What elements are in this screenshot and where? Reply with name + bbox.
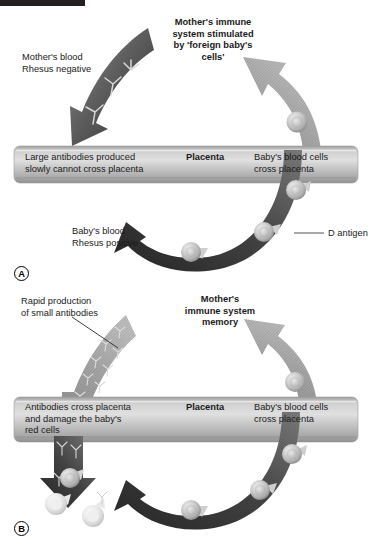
panel-b-rapid-production-label: Rapid production of small antibodies [21, 296, 98, 319]
figure-canvas [0, 0, 370, 548]
red-blood-cell-icon [285, 372, 305, 392]
panel-b-bar-left-label: Antibodies cross placenta and damage the… [25, 402, 131, 437]
red-blood-cell-icon [287, 112, 308, 133]
panel-b-bar-right-label: Baby's blood cells cross placenta [254, 402, 328, 425]
panel-a-bar-right-label: Baby's blood cells cross placenta [254, 152, 328, 175]
red-blood-cell-icon [282, 444, 307, 464]
red-blood-cell-icon [286, 180, 311, 200]
rhesus-disease-figure: Mother's immune system stimulated by 'fo… [0, 0, 370, 548]
panel-a-bar-left-label: Large antibodies produced slowly cannot … [25, 152, 143, 175]
header-black-bar [0, 0, 85, 6]
panel-b-memory-title: Mother's immune system memory [166, 294, 274, 329]
panel-a-stimulated-title: Mother's immune system stimulated by 'fo… [152, 17, 274, 63]
panel-a-d-antigen-label: D antigen [328, 228, 368, 240]
panel-a-descending-arrow [70, 28, 154, 146]
panel-a-bar-center-label: Placenta [186, 152, 224, 164]
panel-letter-b: B [14, 521, 29, 536]
panel-a-mother-blood-label: Mother's blood Rhesus negative [22, 52, 91, 75]
panel-b-bar-center-label: Placenta [186, 402, 224, 414]
damaged-red-cell-icon [45, 493, 71, 515]
panel-a-baby-blood-label: Baby's blood Rhesus positive [72, 226, 138, 249]
panel-letter-a: A [14, 266, 29, 281]
damaged-red-cell-icon [82, 492, 107, 527]
